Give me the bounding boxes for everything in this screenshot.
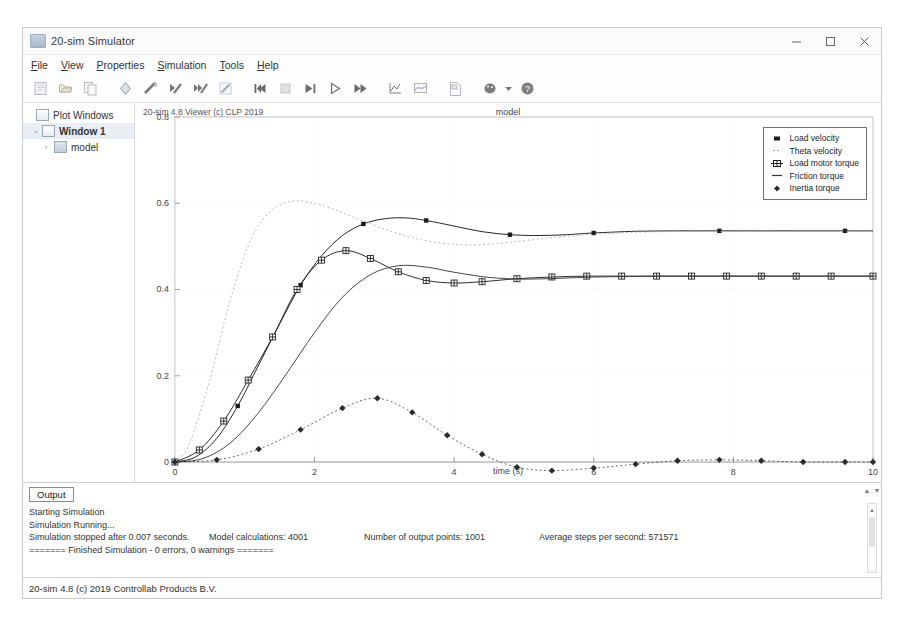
multi-check-icon[interactable]	[189, 77, 211, 99]
svg-text:0.2: 0.2	[156, 371, 168, 381]
stop-icon[interactable]	[274, 77, 296, 99]
rewind-icon[interactable]	[249, 77, 271, 99]
legend-label: Friction torque	[790, 171, 844, 181]
output-stat-stopped: Simulation stopped after 0.007 seconds.	[29, 531, 209, 544]
output-line: Starting Simulation	[29, 506, 881, 519]
output-tab[interactable]: Output	[29, 487, 74, 502]
legend-marker-filled-square-icon	[769, 133, 785, 143]
sidebar-item-window-1[interactable]: ⌄ Window 1	[23, 123, 134, 139]
menu-item-tools[interactable]: Tools	[219, 59, 244, 71]
legend-label: Load motor torque	[790, 158, 859, 168]
open-icon[interactable]	[54, 77, 76, 99]
status-text: 20-sim 4.8 (c) 2019 Controllab Products …	[29, 583, 217, 594]
sidebar-item-plot-windows[interactable]: Plot Windows	[23, 107, 134, 123]
step-check-icon[interactable]	[164, 77, 186, 99]
output-scrollbar[interactable]: ▲ ▼ ▲	[866, 487, 878, 573]
legend-label: Load velocity	[790, 133, 840, 143]
output-stat-points: Number of output points: 1001	[364, 531, 539, 544]
legend-item[interactable]: Theta velocity	[769, 145, 859, 158]
status-bar: 20-sim 4.8 (c) 2019 Controllab Products …	[23, 577, 881, 598]
sidebar-item-label: Window 1	[59, 126, 106, 137]
legend-marker-filled-diamond-icon	[769, 183, 785, 193]
output-stat-calculations: Model calculations: 4001	[209, 531, 364, 544]
series-friction-torque	[175, 265, 873, 462]
menu-bar: File View Properties Simulation Tools He…	[23, 55, 881, 74]
legend-marker-dashed-line-icon	[769, 146, 785, 156]
legend-marker-dash-icon	[769, 171, 785, 181]
twisty[interactable]: ›	[45, 144, 54, 151]
report-icon[interactable]	[444, 77, 466, 99]
menu-item-file[interactable]: File	[31, 59, 48, 71]
window-icon	[36, 109, 49, 121]
x-axis-title: time (s)	[135, 466, 881, 476]
window-icon	[42, 125, 55, 137]
series-load-motor-torque	[172, 248, 876, 465]
legend-label: Theta velocity	[790, 146, 842, 156]
sidebar-item-label: model	[71, 142, 98, 153]
edit-icon[interactable]	[214, 77, 236, 99]
app-window: 20-sim Simulator File View Properties Si…	[22, 27, 882, 599]
svg-text:0.8: 0.8	[156, 112, 168, 122]
menu-item-view[interactable]: View	[61, 59, 84, 71]
plot-icon	[54, 141, 67, 153]
menu-item-properties[interactable]: Properties	[97, 59, 145, 71]
main-body: Plot Windows ⌄ Window 1 › model 20-sim 4…	[23, 103, 881, 482]
svg-text:0.4: 0.4	[156, 284, 168, 294]
chart-legend: Load velocityTheta velocityLoad motor to…	[763, 127, 867, 200]
output-stat-steps: Average steps per second: 571571	[539, 531, 678, 544]
output-stats-line: Simulation stopped after 0.007 seconds. …	[29, 531, 881, 544]
output-log[interactable]: Starting Simulation Simulation Running..…	[23, 502, 881, 556]
chevron-down-icon[interactable]: ▼	[874, 487, 881, 494]
help-icon[interactable]: ?	[516, 77, 538, 99]
output-line: Simulation Running...	[29, 519, 881, 532]
close-icon[interactable]	[847, 28, 881, 54]
plot-panel: 20-sim 4.8 Viewer (c) CLP 2019 model 00.…	[135, 103, 881, 482]
play-icon[interactable]	[324, 77, 346, 99]
plot-xy-icon[interactable]	[384, 77, 406, 99]
sidebar-item-label: Plot Windows	[53, 110, 114, 121]
chevron-up-icon[interactable]: ▲	[864, 487, 871, 494]
series-theta-velocity	[175, 201, 873, 462]
check-model-icon[interactable]	[114, 77, 136, 99]
plot-area-icon[interactable]	[409, 77, 431, 99]
toolbar: ?	[23, 74, 881, 103]
app-icon	[30, 34, 46, 48]
output-collapse-arrows[interactable]: ▲ ▼	[866, 487, 878, 494]
fast-forward-icon[interactable]	[349, 77, 371, 99]
new-icon[interactable]	[29, 77, 51, 99]
svg-text:?: ?	[524, 84, 529, 94]
legend-item[interactable]: Load motor torque	[769, 157, 859, 170]
series-load-velocity	[173, 218, 873, 464]
twisty[interactable]: ⌄	[33, 127, 42, 135]
output-line-finished: ======= Finished Simulation - 0 errors, …	[29, 544, 881, 557]
menu-item-help[interactable]: Help	[257, 59, 279, 71]
plot-windows-tree: Plot Windows ⌄ Window 1 › model	[23, 103, 135, 482]
title-bar: 20-sim Simulator	[23, 28, 881, 55]
menu-item-simulation[interactable]: Simulation	[157, 59, 206, 71]
scroll-up-icon[interactable]: ▲	[868, 504, 876, 515]
window-title: 20-sim Simulator	[51, 35, 135, 47]
minimize-icon[interactable]	[779, 28, 813, 54]
legend-marker-square-cross-icon	[769, 158, 785, 168]
step-forward-icon[interactable]	[299, 77, 321, 99]
dropdown-caret-icon[interactable]	[504, 77, 513, 99]
legend-label: Inertia torque	[790, 183, 840, 193]
svg-text:0.6: 0.6	[156, 198, 168, 208]
legend-item[interactable]: Load velocity	[769, 132, 859, 145]
legend-item[interactable]: Friction torque	[769, 170, 859, 183]
legend-item[interactable]: Inertia torque	[769, 182, 859, 195]
copy-icon[interactable]	[79, 77, 101, 99]
maximize-icon[interactable]	[813, 28, 847, 54]
output-panel: Output Starting Simulation Simulation Ru…	[23, 482, 881, 577]
scrollbar-thumb[interactable]	[869, 517, 875, 547]
sidebar-item-model[interactable]: › model	[23, 139, 134, 155]
palette-icon[interactable]	[479, 77, 501, 99]
run-check-icon[interactable]	[139, 77, 161, 99]
scrollbar-track[interactable]: ▲	[867, 503, 877, 573]
window-controls	[779, 28, 881, 54]
